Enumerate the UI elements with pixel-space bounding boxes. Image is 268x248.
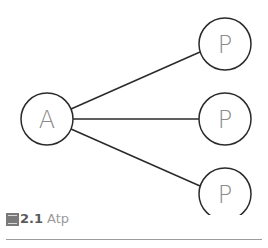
node-a-label: A xyxy=(39,106,55,134)
figure-mark-icon xyxy=(6,213,19,226)
node-a: A xyxy=(21,93,73,145)
edge-a-p1 xyxy=(71,52,200,109)
divider xyxy=(6,239,262,240)
node-p1: P xyxy=(199,18,251,70)
node-p3-label: P xyxy=(218,181,232,209)
diagram: A P P P xyxy=(0,0,268,215)
node-p3: P xyxy=(199,168,251,215)
edges xyxy=(71,52,200,186)
figure-number: 2.1 xyxy=(20,210,43,228)
node-p2: P xyxy=(199,93,251,145)
figure-caption-text: Atp xyxy=(47,210,69,228)
figure-caption: 2.1 Atp xyxy=(6,210,69,228)
node-p2-label: P xyxy=(218,106,232,134)
edge-a-p3 xyxy=(71,129,200,186)
node-p1-label: P xyxy=(218,31,232,59)
